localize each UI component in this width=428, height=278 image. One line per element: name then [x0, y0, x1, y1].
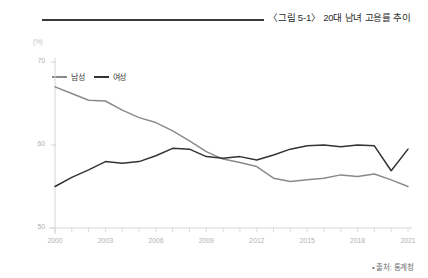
y-tick-label: 50 — [23, 223, 45, 230]
chart-tick-marks — [51, 62, 408, 232]
figure-container: 〈그림 5-1〉 20대 남녀 고용률 추이 (%) 남성 여성 5060702… — [0, 0, 428, 278]
x-tick-label: 2003 — [88, 237, 122, 244]
x-tick-label: 2018 — [341, 237, 375, 244]
chart-series-lines — [55, 87, 408, 187]
x-tick-label: 2000 — [38, 237, 72, 244]
x-tick-label: 2012 — [240, 237, 274, 244]
x-tick-label: 2009 — [189, 237, 223, 244]
series-line-남성 — [55, 87, 408, 187]
x-tick-label: 2021 — [391, 237, 425, 244]
y-tick-label: 60 — [23, 140, 45, 147]
source-note: • 출처: 통계청 — [372, 261, 414, 272]
x-tick-label: 2015 — [290, 237, 324, 244]
y-tick-label: 70 — [23, 57, 45, 64]
series-line-여성 — [55, 145, 408, 187]
x-tick-label: 2006 — [139, 237, 173, 244]
chart-axes — [49, 58, 412, 234]
